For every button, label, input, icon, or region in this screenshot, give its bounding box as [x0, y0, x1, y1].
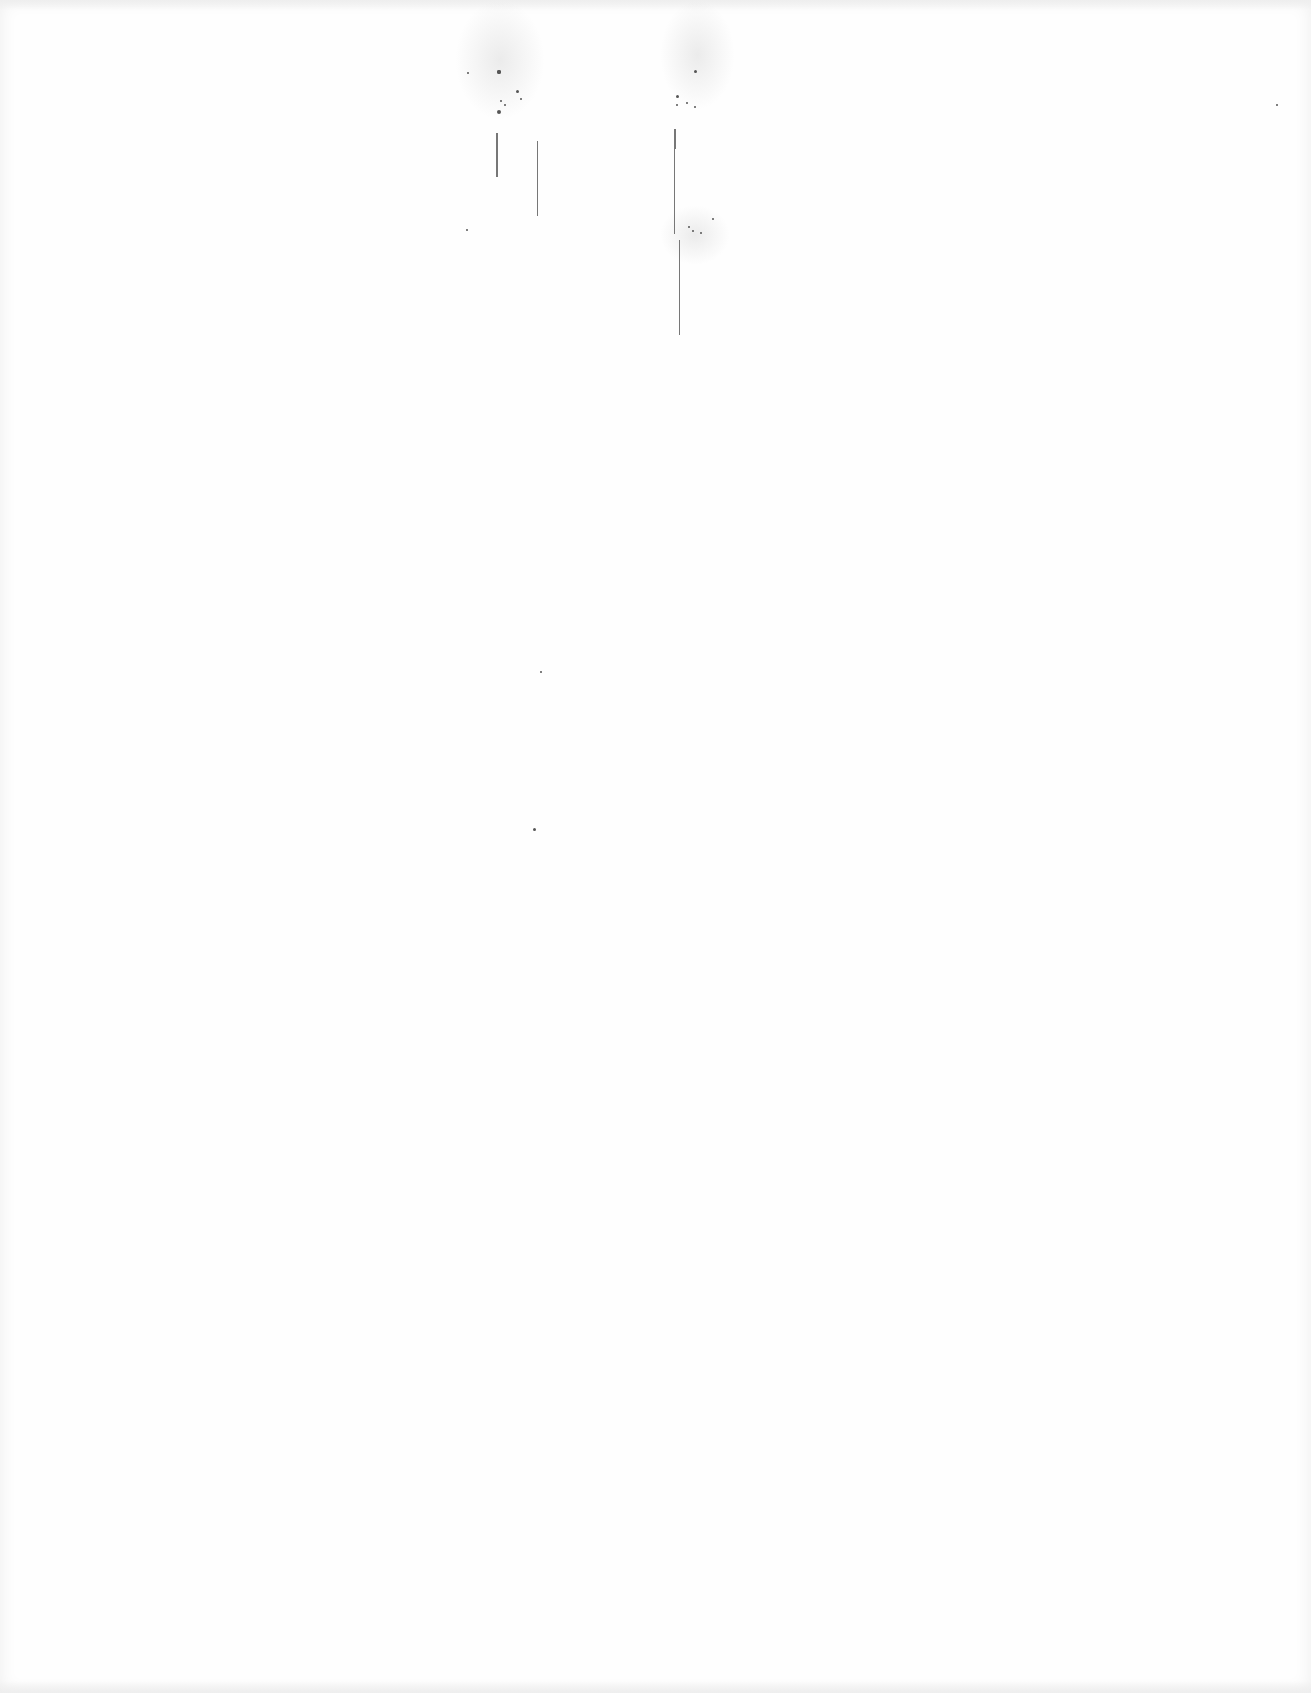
scan-haze	[455, 0, 545, 120]
scan-streak	[674, 129, 676, 149]
scan-streak	[679, 240, 680, 335]
blank-document-page	[0, 0, 1311, 1693]
scan-streak	[537, 141, 538, 216]
scan-speck	[466, 229, 468, 231]
scan-speck	[500, 100, 502, 102]
scan-speck	[497, 70, 501, 74]
scan-speck	[694, 106, 696, 108]
scan-haze	[660, 205, 730, 265]
scan-streak	[674, 149, 675, 234]
scan-speck	[688, 226, 690, 228]
scan-edge-shadow-top	[0, 0, 1311, 10]
scan-speck	[520, 98, 522, 100]
scan-speck	[694, 70, 697, 73]
scan-haze	[660, 0, 735, 110]
scan-speck	[692, 230, 694, 232]
scan-speck	[700, 232, 702, 234]
scan-speck	[516, 90, 519, 93]
scan-streak	[496, 133, 498, 177]
scan-speck	[533, 828, 536, 831]
scan-speck	[497, 110, 501, 114]
scan-speck	[676, 104, 678, 106]
scan-speck	[1276, 104, 1278, 106]
scan-speck	[504, 104, 506, 106]
scan-speck	[467, 72, 469, 74]
scan-speck	[540, 671, 542, 673]
scan-speck	[676, 95, 679, 98]
scan-speck	[712, 218, 714, 220]
scan-speck	[686, 102, 688, 104]
scan-edge-shadow-bottom	[0, 1681, 1311, 1693]
